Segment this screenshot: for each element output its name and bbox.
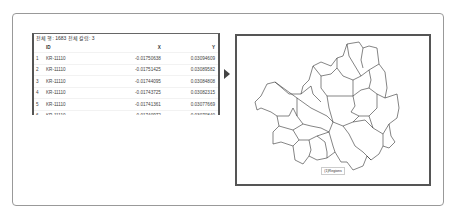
row-index: 6: [34, 110, 45, 115]
cell-y: 0.03082315: [165, 87, 218, 99]
table-row[interactable]: 6 KR-11110 -0.01740972 0.03070840: [34, 110, 218, 115]
cell-y: 0.03094609: [165, 53, 218, 65]
table-header-row: ID X Y: [34, 42, 218, 53]
cell-id: KR-11110: [45, 87, 107, 99]
data-table: ID X Y 1 KR-11110 -0.01750638 0.03094609…: [34, 42, 218, 115]
row-index: 2: [34, 64, 45, 76]
cell-y: 0.03084808: [165, 76, 218, 88]
column-header-id[interactable]: ID: [45, 42, 107, 53]
cell-y: 0.03077669: [165, 99, 218, 111]
table-row[interactable]: 4 KR-11110 -0.01743725 0.03082315: [34, 87, 218, 99]
table-row[interactable]: 2 KR-11110 -0.01751425 0.03089582: [34, 64, 218, 76]
map-legend: (1)Regions: [321, 167, 345, 175]
cell-x: -0.01741361: [107, 99, 165, 111]
triangle-right-icon: [224, 69, 230, 79]
cell-id: KR-11110: [45, 110, 107, 115]
row-index: 1: [34, 53, 45, 65]
row-index: 4: [34, 87, 45, 99]
column-header-y[interactable]: Y: [165, 42, 218, 53]
data-table-panel: 전체 행: 1683 전체 칼럼: 3 ID X Y 1 KR-11110 -0…: [32, 33, 220, 115]
cell-x: -0.01743725: [107, 87, 165, 99]
column-header-index: [34, 42, 45, 53]
cell-x: -0.01740972: [107, 110, 165, 115]
cell-y: 0.03089582: [165, 64, 218, 76]
cell-x: -0.01744095: [107, 76, 165, 88]
table-row[interactable]: 3 KR-11110 -0.01744095 0.03084808: [34, 76, 218, 88]
seoul-districts-map: [237, 36, 429, 184]
cell-y: 0.03070840: [165, 110, 218, 115]
cell-id: KR-11110: [45, 76, 107, 88]
table-status: 전체 행: 1683 전체 칼럼: 3: [34, 34, 218, 42]
cell-x: -0.01751425: [107, 64, 165, 76]
cell-id: KR-11110: [45, 99, 107, 111]
row-index: 3: [34, 76, 45, 88]
table-row[interactable]: 1 KR-11110 -0.01750638 0.03094609: [34, 53, 218, 65]
cell-x: -0.01750638: [107, 53, 165, 65]
table-row[interactable]: 5 KR-11110 -0.01741361 0.03077669: [34, 99, 218, 111]
map-panel: (1)Regions: [235, 34, 431, 186]
cell-id: KR-11110: [45, 53, 107, 65]
cell-id: KR-11110: [45, 64, 107, 76]
column-header-x[interactable]: X: [107, 42, 165, 53]
row-index: 5: [34, 99, 45, 111]
